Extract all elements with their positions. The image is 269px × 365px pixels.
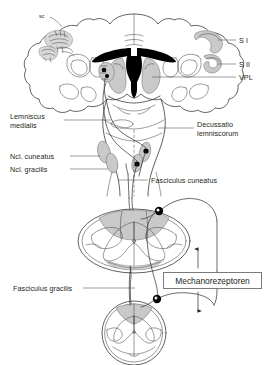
label-vpl: VPL: [239, 73, 253, 82]
spinal-cord-lumbar: [102, 301, 166, 365]
label-sc: sc: [39, 12, 44, 21]
spinal-cord-cervical: [78, 209, 190, 273]
leader-sc: [50, 17, 62, 27]
nucleus-cuneatus-gracilis-right: [130, 141, 152, 173]
label-ncl-gracilis: Ncl. gracilis: [10, 165, 47, 174]
peripheral-afferents: [141, 198, 217, 307]
label-s1: S I: [239, 36, 248, 45]
label-ncl-cuneatus: Ncl. cuneatus: [10, 152, 54, 161]
label-fasciculus-gracilis: Fasciculus gracilis: [13, 284, 72, 293]
mechanoreceptors-box: Mechanorezeptoren: [163, 272, 262, 289]
label-fasciculus-cuneatus: Fasciculus cuneatus: [151, 176, 217, 185]
diagram-canvas: .ol{fill:none;stroke:#3a3a3a;stroke-widt…: [0, 0, 269, 365]
cerebrum-coronal-section: [24, 14, 243, 114]
label-decussatio-lemniscorum: Decussatio lemniscorum: [197, 120, 238, 138]
thalamic-relay-left: [99, 62, 114, 82]
label-s2: S II: [239, 60, 250, 69]
anatomy-illustration: .ol{fill:none;stroke:#3a3a3a;stroke-widt…: [0, 0, 269, 365]
label-lemniscus-medialis: Lemniscus medialis: [10, 112, 45, 130]
